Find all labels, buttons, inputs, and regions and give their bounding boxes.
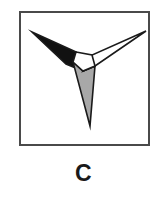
lower-gray-arm [73, 62, 95, 126]
figure-panel: C [0, 0, 167, 201]
three-armed-pinwheel-shape [32, 31, 146, 126]
figure-caption-label: C [0, 158, 167, 188]
